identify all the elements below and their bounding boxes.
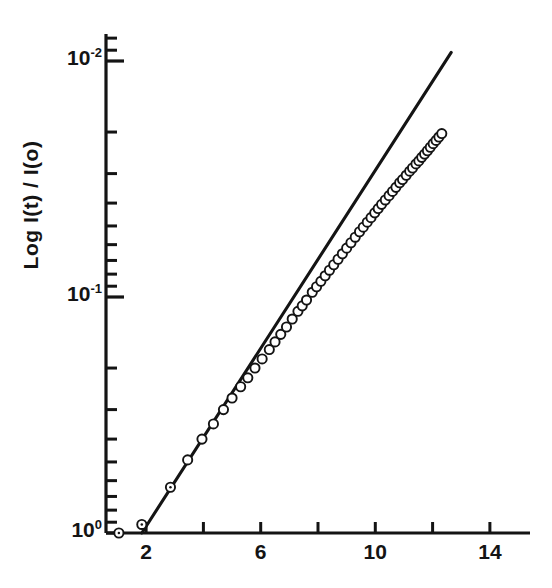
y-tick-exponent: -1 xyxy=(90,281,102,296)
data-points xyxy=(114,129,446,538)
tick-marks xyxy=(106,38,490,533)
y-tick-label: 10-2 xyxy=(67,46,102,70)
data-point xyxy=(258,354,267,363)
y-axis-label: Log I(t) / I(o) xyxy=(19,95,49,315)
y-tick-exponent: 0 xyxy=(95,517,102,532)
y-tick-exponent: -2 xyxy=(90,45,102,60)
x-tick-label: 10 xyxy=(345,540,405,564)
data-point xyxy=(209,419,218,428)
data-point xyxy=(114,528,123,537)
chart-figure: Log I(t) / I(o) 261014 10010-110-2 xyxy=(0,0,552,588)
data-point xyxy=(137,520,146,529)
x-tick-label: 6 xyxy=(231,540,291,564)
data-point xyxy=(243,373,252,382)
y-tick-mantissa: 10 xyxy=(67,282,90,305)
x-tick-label: 2 xyxy=(116,540,176,564)
data-point xyxy=(437,129,446,138)
data-point xyxy=(197,434,206,443)
x-tick-label: 14 xyxy=(460,540,520,564)
data-point xyxy=(219,405,228,414)
y-tick-mantissa: 10 xyxy=(71,518,94,541)
y-tick-mantissa: 10 xyxy=(67,46,90,69)
y-tick-label: 10-1 xyxy=(67,282,102,306)
y-tick-label: 100 xyxy=(71,518,102,542)
data-point xyxy=(236,382,245,391)
data-point xyxy=(250,363,259,372)
data-point xyxy=(227,393,236,402)
data-point xyxy=(166,483,175,492)
data-point xyxy=(183,455,192,464)
